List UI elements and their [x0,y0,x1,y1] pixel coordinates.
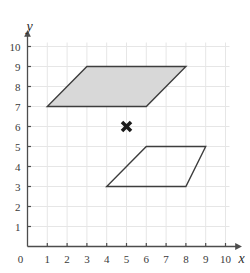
x-tick-label: 3 [84,253,90,265]
x-tick-label: 10 [220,253,232,265]
coordinate-plane-figure: 12345678910123456789100xy [0,0,250,273]
x-tick-label: 5 [124,253,130,265]
y-tick-label: 10 [10,41,22,53]
y-tick-label: 3 [15,181,21,193]
y-tick-label: 7 [15,101,21,113]
y-tick-label: 9 [15,61,21,73]
x-tick-label: 4 [104,253,110,265]
x-tick-label: 2 [64,253,70,265]
x-axis-label: x [237,251,245,266]
y-tick-label: 6 [15,121,21,133]
axis-names: xy [24,19,245,266]
origin-label: 0 [18,253,24,265]
y-tick-label: 1 [15,221,21,233]
x-tick-label: 6 [144,253,150,265]
y-tick-label: 8 [15,81,21,93]
x-tick-label: 8 [183,253,189,265]
plot-canvas: 12345678910123456789100xy [0,0,250,273]
y-axis-label: y [24,19,33,34]
shaded-parallelogram [47,67,186,107]
y-tick-label: 5 [15,141,21,153]
y-tick-label: 4 [15,161,21,173]
y-tick-label: 2 [15,201,21,213]
x-tick-label: 1 [45,253,51,265]
x-tick-label: 9 [203,253,209,265]
x-tick-label: 7 [163,253,169,265]
